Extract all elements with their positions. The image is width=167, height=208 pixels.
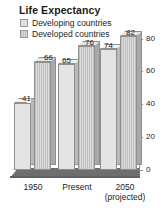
value-label-1950-developing: 41 [22,95,31,103]
value-label-2050-developed: 82 [126,29,135,37]
bar-2050-developed[interactable] [120,36,137,170]
x-axis-label-2050-line2: (projected) [96,192,154,202]
bar-1950-developing[interactable] [14,103,31,170]
y-tick-label-80: 80 [146,35,155,43]
value-label-present-developing: 65 [62,57,71,65]
y-tick-label-0: 0 [146,166,150,174]
y-tick-label-40: 40 [146,100,155,108]
y-tick-label-20: 20 [146,133,155,141]
y-tick-0 [139,170,143,171]
chart-container: Life Expectancy Developing countries Dev… [0,0,167,208]
bar-1950-developed[interactable] [34,62,51,170]
value-label-1950-developed: 66 [44,54,53,62]
bar-present-developed[interactable] [78,46,95,170]
bar-present-developing[interactable] [58,64,75,170]
bar-2050-developing[interactable] [100,49,117,170]
value-label-2050-developing: 74 [104,42,113,50]
x-axis-label-2050: 2050 (projected) [96,182,154,202]
x-axis-label-2050-line1: 2050 [96,182,154,192]
value-label-present-developed: 76 [85,39,94,47]
y-tick-label-60: 60 [146,67,155,75]
plot-area: 80 60 40 20 0 [0,0,167,208]
